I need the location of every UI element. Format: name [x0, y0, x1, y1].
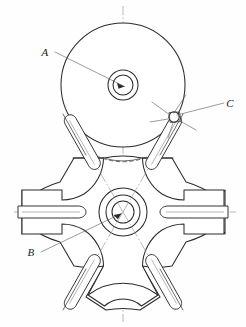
leader-line-c — [177, 103, 224, 115]
lower-rotor-profile — [22, 158, 224, 306]
drawing-canvas: A C B — [0, 0, 246, 327]
label-c: C — [226, 97, 234, 109]
label-b: B — [27, 246, 34, 258]
technical-drawing-figure: A C B — [0, 0, 246, 327]
pivot-ray-downright — [180, 121, 196, 130]
vane-right-horizontal — [160, 206, 228, 218]
vane-left-horizontal — [18, 206, 86, 218]
rotor-profile-path — [22, 158, 224, 306]
label-a: A — [40, 46, 48, 58]
